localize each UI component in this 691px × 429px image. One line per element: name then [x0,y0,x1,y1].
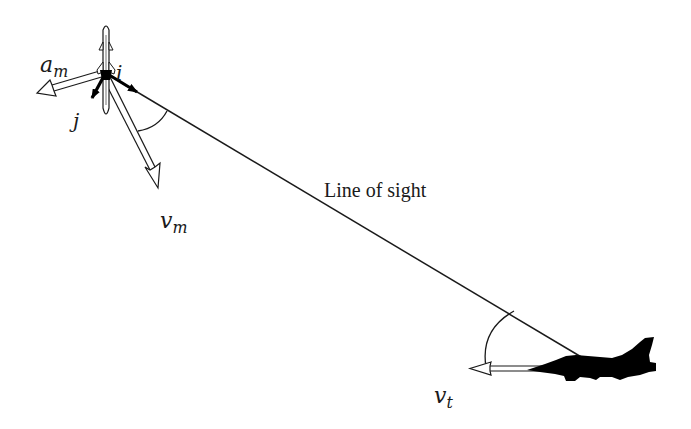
label-unit-j: j [73,111,79,131]
missile-center-hub [100,70,112,80]
target-aircraft [527,337,656,381]
label-line-of-sight: Line of sight [324,180,426,200]
missile-angle-arc [138,111,167,131]
accel-symbol: a [40,52,53,77]
label-target-velocity: vt [434,385,453,411]
label-missile-velocity: vm [160,210,187,236]
unit-j-symbol: j [73,109,79,133]
vt-subscript: t [446,393,452,412]
unit-i-symbol: i [116,61,122,85]
diagram-canvas: am i j vm Line of sight vt [0,0,691,429]
missile-velocity-vector [104,77,160,188]
engagement-geometry-svg [0,0,691,429]
label-unit-i: i [116,63,122,83]
label-missile-acceleration: am [40,54,68,80]
target-angle-arc [485,311,514,367]
vt-symbol: v [434,383,446,408]
vm-subscript: m [172,218,187,237]
vm-symbol: v [160,208,172,233]
accel-subscript: m [53,62,68,81]
